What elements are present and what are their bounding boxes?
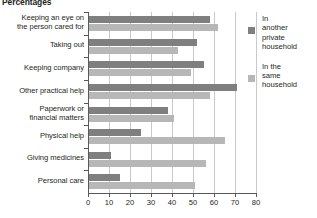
y-axis-tick	[84, 35, 88, 36]
bar	[88, 107, 168, 114]
x-axis-tick-label: 80	[246, 198, 266, 207]
category-label: Taking out	[0, 40, 84, 49]
bar	[88, 137, 225, 144]
bar	[88, 84, 237, 91]
legend-label: In the same household	[262, 62, 317, 90]
bar-group	[88, 57, 256, 80]
category-label: Keeping company	[0, 63, 84, 72]
category-label: Keeping an eye onthe person cared for	[0, 13, 84, 31]
bar	[88, 92, 210, 99]
bar	[88, 39, 197, 46]
legend-item[interactable]: In the same household	[248, 62, 317, 90]
bar-chart: Percentages Keeping an eye onthe person …	[0, 0, 317, 218]
bar	[88, 47, 178, 54]
bar-group	[88, 170, 256, 193]
x-axis-tick	[256, 193, 257, 197]
bar-group	[88, 148, 256, 171]
legend-item[interactable]: In another private household	[248, 14, 317, 52]
legend-label: In another private household	[262, 14, 317, 52]
x-axis-tick	[193, 193, 194, 197]
bar	[88, 115, 174, 122]
bar	[88, 69, 191, 76]
y-axis-tick	[84, 148, 88, 149]
x-axis-tick-label: 40	[162, 198, 182, 207]
bar	[88, 152, 111, 159]
y-axis-tick	[84, 170, 88, 171]
bar-group	[88, 12, 256, 35]
legend-swatch	[248, 27, 255, 34]
x-axis-tick-label: 20	[120, 198, 140, 207]
bar	[88, 182, 195, 189]
y-axis-line	[88, 12, 89, 194]
x-axis-tick-label: 30	[141, 198, 161, 207]
category-label: Physical help	[0, 131, 84, 140]
bar	[88, 16, 210, 23]
category-label: Personal care	[0, 176, 84, 185]
category-label: Giving medicines	[0, 153, 84, 162]
bar-rows	[88, 12, 256, 193]
bar	[88, 61, 204, 68]
bar-group	[88, 80, 256, 103]
bar-group	[88, 125, 256, 148]
x-axis-tick-label: 10	[99, 198, 119, 207]
x-axis-tick	[130, 193, 131, 197]
y-axis-tick	[84, 57, 88, 58]
x-axis-tick-label: 0	[78, 198, 98, 207]
y-axis-tick	[84, 80, 88, 81]
x-axis-tick	[109, 193, 110, 197]
x-axis-tick	[88, 193, 89, 197]
bar-group	[88, 35, 256, 58]
x-axis-tick-label: 70	[225, 198, 245, 207]
legend: In another private householdIn the same …	[248, 14, 317, 100]
x-axis-tick-label: 50	[183, 198, 203, 207]
y-axis-tick	[84, 125, 88, 126]
x-axis-tick-label: 60	[204, 198, 224, 207]
chart-title: Percentages	[2, 0, 51, 7]
y-axis-tick	[84, 103, 88, 104]
y-axis-tick	[84, 12, 88, 13]
x-axis-tick	[172, 193, 173, 197]
x-axis-tick	[235, 193, 236, 197]
bar	[88, 160, 206, 167]
bar	[88, 24, 218, 31]
x-axis-tick	[151, 193, 152, 197]
legend-swatch	[248, 75, 255, 82]
x-axis-tick	[214, 193, 215, 197]
category-axis-labels: Keeping an eye onthe person cared forTak…	[0, 12, 84, 193]
bar-group	[88, 103, 256, 126]
bar	[88, 129, 141, 136]
category-label: Other practical help	[0, 86, 84, 95]
category-label: Paperwork orfinancial matters	[0, 104, 84, 122]
bar	[88, 174, 120, 181]
plot-area	[88, 12, 256, 193]
